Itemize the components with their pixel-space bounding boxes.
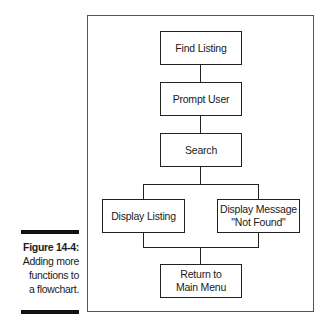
node-label: Find Listing — [175, 42, 226, 55]
connector — [200, 247, 201, 264]
node-find-listing: Find Listing — [160, 31, 242, 65]
figure-caption: Figure 14-4: Adding more functions to a … — [23, 240, 79, 296]
node-label: Main Menu — [176, 281, 226, 294]
node-display-message: Display Message "Not Found" — [217, 199, 300, 233]
caption-line: Adding more — [23, 254, 79, 268]
connector — [200, 115, 201, 134]
connector — [258, 184, 259, 199]
merge-connector — [143, 247, 259, 248]
node-label: Display Message — [220, 203, 297, 216]
node-label: Prompt User — [173, 93, 230, 106]
caption-top-rule — [21, 230, 79, 234]
node-return-main-menu: Return to Main Menu — [160, 264, 242, 298]
figure-number: Figure 14-4: — [23, 240, 79, 254]
connector — [200, 166, 201, 184]
connector — [258, 232, 259, 247]
node-display-listing: Display Listing — [102, 199, 185, 233]
node-label: "Not Found" — [231, 216, 285, 229]
caption-line: functions to — [23, 268, 79, 282]
caption-bottom-rule — [21, 310, 79, 314]
connector — [143, 232, 144, 247]
node-label: Search — [185, 144, 217, 157]
node-label: Return to — [180, 268, 221, 281]
node-label: Display Listing — [111, 210, 176, 223]
node-prompt-user: Prompt User — [160, 82, 242, 116]
branch-connector — [143, 184, 259, 185]
node-search: Search — [160, 133, 242, 167]
connector — [143, 184, 144, 199]
caption-line: a flowchart. — [23, 282, 79, 296]
connector — [200, 64, 201, 83]
